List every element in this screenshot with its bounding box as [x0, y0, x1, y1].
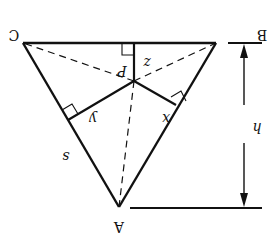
label-y: y — [88, 111, 98, 127]
label-a: A — [113, 219, 125, 235]
label-c: C — [9, 27, 20, 43]
right-angle-mark-z — [122, 43, 134, 55]
label-s: s — [62, 149, 69, 165]
perpendicular-x — [134, 81, 176, 105]
label-z: z — [143, 55, 152, 71]
height-arrowhead-down-icon — [240, 193, 248, 207]
dashed-p-to-a — [119, 81, 134, 207]
side-ca — [23, 43, 119, 207]
height-arrowhead-up-icon — [240, 44, 248, 58]
label-p: P — [117, 63, 128, 79]
label-x: x — [162, 111, 170, 127]
labels: C B A P z y x s h — [9, 27, 268, 235]
label-h: h — [252, 120, 261, 136]
label-b: B — [257, 27, 267, 43]
perpendicular-y — [68, 81, 134, 120]
triangle-diagram: C B A P z y x s h — [0, 0, 277, 242]
